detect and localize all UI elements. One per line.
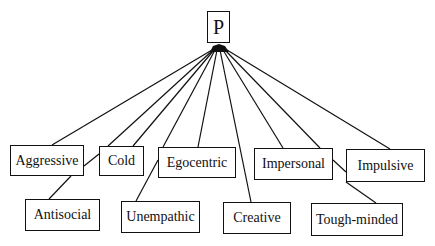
- node-label: Aggressive: [16, 153, 79, 169]
- node-impersonal: Impersonal: [254, 148, 333, 180]
- root-node-p: P: [207, 11, 230, 43]
- junction-node: [210, 44, 229, 52]
- node-impulsive: Impulsive: [346, 149, 425, 182]
- node-label: Cold: [108, 153, 135, 169]
- node-label: Impulsive: [358, 158, 414, 174]
- node-antisocial: Antisocial: [25, 199, 100, 231]
- node-label: Egocentric: [167, 155, 228, 171]
- node-unempathic: Unempathic: [121, 201, 200, 233]
- node-label: Tough-minded: [316, 212, 398, 228]
- node-label: Antisocial: [34, 207, 92, 223]
- node-cold: Cold: [99, 146, 144, 176]
- node-label: Impersonal: [262, 156, 325, 172]
- node-tough-minded: Tough-minded: [311, 203, 403, 236]
- node-aggressive: Aggressive: [10, 145, 84, 176]
- root-label: P: [213, 16, 224, 39]
- node-label: Unempathic: [126, 209, 194, 225]
- node-egocentric: Egocentric: [158, 147, 236, 178]
- node-label: Creative: [233, 210, 280, 226]
- node-creative: Creative: [223, 202, 291, 234]
